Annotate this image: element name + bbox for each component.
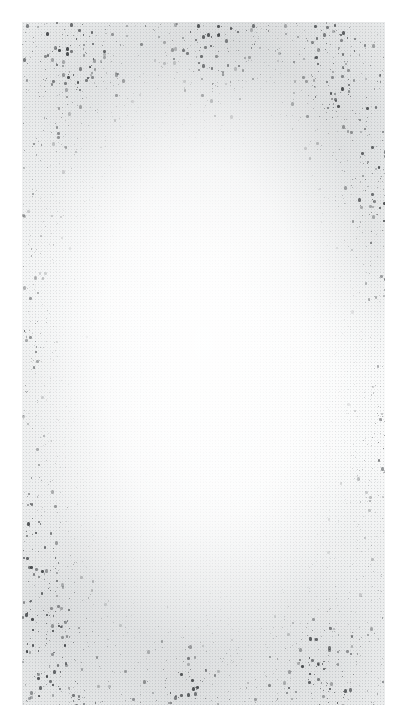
grain-speck xyxy=(115,94,118,97)
grain-speck xyxy=(54,505,57,508)
grain-speck xyxy=(295,509,296,510)
grain-speck xyxy=(43,347,44,348)
grain-speck xyxy=(283,681,286,685)
grain-speck xyxy=(351,194,352,195)
grain-speck xyxy=(56,64,58,66)
grain-speck xyxy=(323,690,324,691)
grain-speck xyxy=(231,660,232,661)
grain-speck xyxy=(202,64,205,68)
grain-speck xyxy=(56,341,58,343)
grain-speck xyxy=(58,107,60,110)
grain-speck xyxy=(234,505,235,506)
grain-speck xyxy=(367,501,368,502)
grain-speck xyxy=(327,683,328,684)
grain-speck xyxy=(336,598,337,599)
grain-speck xyxy=(70,399,71,400)
grain-speck xyxy=(290,625,291,626)
grain-speck xyxy=(139,94,141,96)
grain-speck xyxy=(359,292,360,293)
grain-speck xyxy=(256,687,257,688)
grain-speck xyxy=(318,71,319,72)
grain-speck xyxy=(229,601,230,602)
grain-speck xyxy=(58,142,59,143)
grain-speck xyxy=(342,170,343,171)
grain-speck xyxy=(236,50,237,51)
grain-speck xyxy=(79,89,81,91)
grain-speck xyxy=(205,698,206,699)
grain-speck xyxy=(271,115,272,116)
grain-speck xyxy=(127,115,128,116)
grain-speck xyxy=(340,482,342,485)
grain-speck xyxy=(383,472,384,473)
grain-speck xyxy=(87,468,88,469)
grain-speck xyxy=(217,34,220,37)
grain-speck xyxy=(205,391,206,392)
grain-speck xyxy=(282,589,283,590)
grain-speck xyxy=(184,89,186,92)
grain-speck xyxy=(81,668,83,671)
grain-speck xyxy=(356,257,357,258)
grain-speck xyxy=(312,698,313,699)
grain-speck xyxy=(275,50,276,52)
grain-speck xyxy=(25,385,26,386)
grain-speck xyxy=(324,197,325,198)
grain-speck xyxy=(345,63,347,65)
grain-speck xyxy=(220,609,221,610)
grain-speck xyxy=(381,611,382,612)
grain-speck xyxy=(96,35,97,36)
grain-speck xyxy=(67,620,68,622)
grain-speck xyxy=(46,322,47,323)
grain-speck xyxy=(111,388,112,389)
grain-speck xyxy=(173,61,176,65)
grain-speck xyxy=(357,476,358,477)
grain-speck xyxy=(329,623,330,624)
grain-speck xyxy=(347,371,348,372)
grain-speck xyxy=(307,41,308,42)
grain-image-canvas xyxy=(0,0,407,728)
grain-speck xyxy=(163,41,166,44)
grain-speck xyxy=(357,477,360,481)
grain-speck xyxy=(337,105,340,108)
grain-speck xyxy=(277,679,278,680)
grain-speck xyxy=(337,116,338,117)
grain-fine-speckle-layer xyxy=(22,22,385,705)
grain-speck xyxy=(58,75,59,76)
grain-speck xyxy=(191,82,192,83)
grain-speck xyxy=(232,629,233,630)
grain-speck xyxy=(164,446,165,447)
grain-speck xyxy=(122,79,125,83)
grain-speck xyxy=(56,126,58,129)
grain-speck xyxy=(363,516,364,517)
grain-speck xyxy=(329,609,330,610)
grain-speck xyxy=(361,637,362,638)
grain-speck xyxy=(327,245,328,246)
grain-speck xyxy=(204,46,207,49)
grain-speck xyxy=(352,468,353,469)
grain-speck xyxy=(330,92,332,95)
grain-speck xyxy=(103,41,104,42)
grain-speck xyxy=(38,650,39,652)
grain-speck xyxy=(36,249,37,250)
grain-speck xyxy=(228,624,229,625)
grain-speck xyxy=(371,241,372,242)
grain-speck xyxy=(349,688,352,692)
grain-speck xyxy=(132,698,135,701)
grain-speck xyxy=(323,531,324,532)
grain-speck xyxy=(152,692,154,694)
grain-speck xyxy=(377,413,378,414)
grain-speck xyxy=(279,331,280,332)
grain-speck xyxy=(192,687,195,691)
grain-speck xyxy=(194,692,197,696)
grain-speck xyxy=(333,628,335,630)
grain-speck xyxy=(365,302,366,303)
grain-speck xyxy=(203,191,204,192)
grain-speck xyxy=(165,582,166,583)
grain-speck xyxy=(378,495,379,496)
grain-speck xyxy=(143,680,146,684)
grain-speck xyxy=(383,220,385,222)
grain-speck xyxy=(346,650,349,653)
grain-speck xyxy=(91,76,94,79)
grain-speck xyxy=(259,47,261,49)
grain-speck xyxy=(110,82,111,83)
grain-speck xyxy=(88,597,89,599)
